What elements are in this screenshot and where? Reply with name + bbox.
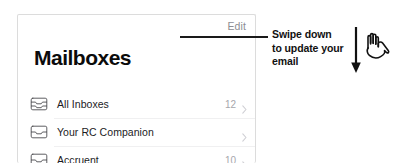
mailbox-row-your-rc-companion[interactable]: Your RC Companion <box>18 118 255 146</box>
page-title: Mailboxes <box>34 45 131 70</box>
mailbox-row-all-inboxes[interactable]: All Inboxes 12 <box>18 90 255 118</box>
inbox-stack-icon <box>30 97 48 111</box>
mailbox-row-accruent[interactable]: Accruent 10 <box>18 146 255 163</box>
chevron-right-icon <box>242 128 247 137</box>
unread-count: 10 <box>224 155 236 164</box>
mailbox-label: All Inboxes <box>57 98 109 110</box>
row-accessory <box>224 128 255 137</box>
edit-button[interactable]: Edit <box>228 20 247 33</box>
chevron-right-icon <box>242 156 247 164</box>
mailbox-list: All Inboxes 12 Your RC Companion <box>18 90 255 163</box>
row-accessory: 10 <box>224 155 255 164</box>
pointing-hand-icon <box>362 28 396 64</box>
navigation-bar: Edit <box>18 15 255 43</box>
mailbox-label: Your RC Companion <box>57 126 154 138</box>
mailbox-label: Accruent <box>57 154 99 163</box>
annotation-text: Swipe down to update your email <box>272 28 344 69</box>
callout-leader-line <box>180 36 268 38</box>
unread-count: 12 <box>224 99 236 110</box>
row-accessory: 12 <box>224 99 255 110</box>
inbox-tray-icon <box>30 125 48 139</box>
chevron-right-icon <box>242 100 247 109</box>
inbox-tray-icon <box>30 153 48 163</box>
